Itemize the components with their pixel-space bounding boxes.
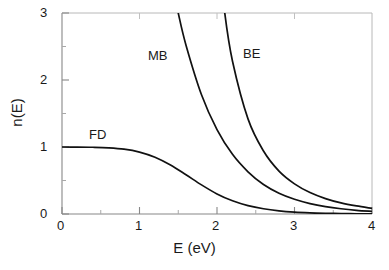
y-tick-label-0: 0 — [40, 207, 47, 220]
curve-label-fd: FD — [89, 128, 106, 141]
x-tick-label-2: 2 — [212, 219, 219, 232]
y-axis-minor-ticks — [62, 47, 66, 181]
x-tick-label-1: 1 — [135, 219, 142, 232]
x-tick-label-4: 4 — [368, 219, 375, 232]
curve-label-mb: MB — [148, 49, 168, 62]
y-tick-label-2: 2 — [40, 73, 47, 86]
y-tick-label-1: 1 — [40, 140, 47, 153]
x-tick-label-3: 3 — [290, 219, 297, 232]
curve-label-be: BE — [243, 47, 260, 60]
curve-be — [217, 0, 372, 208]
data-curves — [62, 0, 372, 214]
plot-frame — [62, 13, 372, 214]
x-tick-label-0: 0 — [57, 219, 64, 232]
chart-figure: 3 2 1 0 0 1 2 3 4 FD MB BE E (eV) n(E) — [0, 0, 389, 270]
curve-mb — [171, 0, 373, 211]
top-axis-ticks — [140, 13, 295, 19]
y-axis-label: n(E) — [9, 81, 24, 145]
y-tick-label-3: 3 — [40, 6, 47, 19]
x-axis-label: E (eV) — [0, 240, 389, 255]
curve-fd — [62, 147, 372, 214]
